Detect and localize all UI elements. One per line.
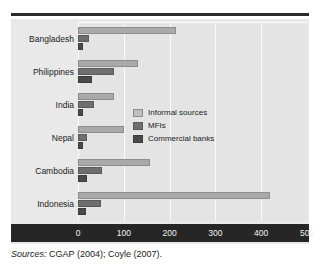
legend-item: MFIs — [133, 120, 237, 131]
source-note-text: CGAP (2004); Coyle (2007). — [49, 249, 162, 259]
plot-top-edge — [78, 22, 307, 23]
figure-container: BangladeshPhilippinesIndiaNepalCambodiaI… — [0, 0, 320, 268]
legend-label: Informal sources — [148, 108, 207, 117]
legend-label: Commercial banks — [148, 134, 214, 143]
x-axis-band: 0100200300400500 — [11, 224, 309, 242]
bar — [78, 126, 124, 133]
legend-item: Informal sources — [133, 107, 237, 118]
category-label: Bangladesh — [29, 34, 74, 44]
bar — [78, 93, 114, 100]
bar — [78, 192, 270, 199]
bar — [78, 35, 89, 42]
category-label: Philippines — [33, 67, 74, 77]
bar — [78, 208, 86, 215]
bar — [78, 134, 87, 141]
category-label: Nepal — [52, 133, 74, 143]
bar — [78, 60, 138, 67]
bar — [78, 76, 92, 83]
bar — [78, 175, 87, 182]
bar — [78, 109, 83, 116]
x-tick-label-400: 400 — [254, 228, 268, 238]
bar — [78, 159, 150, 166]
bar — [78, 101, 94, 108]
legend-swatch-icon — [133, 122, 143, 130]
gridline-100 — [124, 22, 125, 221]
chart-panel: BangladeshPhilippinesIndiaNepalCambodiaI… — [11, 19, 309, 244]
source-note: Sources: CGAP (2004); Coyle (2007). — [11, 249, 162, 259]
top-divider-rule — [11, 13, 309, 16]
bar — [78, 68, 114, 75]
x-tick-label-100: 100 — [117, 228, 131, 238]
bar-group — [78, 192, 307, 216]
legend-item: Commercial banks — [133, 133, 237, 144]
category-axis-labels: BangladeshPhilippinesIndiaNepalCambodiaI… — [11, 19, 78, 221]
legend-label: MFIs — [148, 121, 166, 130]
bar-group — [78, 60, 307, 84]
bar — [78, 167, 102, 174]
bar — [78, 43, 83, 50]
x-tick-label-200: 200 — [163, 228, 177, 238]
x-tick-label-0: 0 — [76, 228, 81, 238]
bar — [78, 200, 101, 207]
category-label: Indonesia — [37, 199, 74, 209]
bar-group — [78, 159, 307, 183]
gridline-400 — [261, 22, 262, 221]
x-tick-label-500: 500 — [300, 228, 314, 238]
x-tick-label-300: 300 — [208, 228, 222, 238]
legend-swatch-icon — [133, 135, 143, 143]
legend-swatch-icon — [133, 109, 143, 117]
category-label: India — [56, 100, 74, 110]
gridline-0 — [78, 22, 79, 221]
bar — [78, 142, 83, 149]
chart-legend: Informal sourcesMFIsCommercial banks — [133, 107, 237, 146]
bar — [78, 27, 176, 34]
category-label: Cambodia — [35, 166, 74, 176]
source-note-prefix: Sources: — [11, 249, 47, 259]
bar-group — [78, 27, 307, 51]
